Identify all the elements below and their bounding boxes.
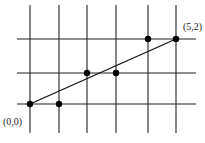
lattice-point — [27, 101, 33, 107]
origin-label: (0,0) — [3, 116, 22, 127]
lattice-point — [84, 70, 90, 76]
lattice-point — [145, 36, 151, 42]
end-label: (5,2) — [183, 21, 202, 32]
lattice-diagram — [0, 0, 205, 143]
lattice-point — [56, 101, 62, 107]
horizontal-grid-lines — [17, 39, 196, 104]
lattice-point — [173, 36, 179, 42]
lattice-point — [113, 70, 119, 76]
line-segment — [30, 39, 176, 104]
vertical-grid-lines — [30, 5, 176, 133]
